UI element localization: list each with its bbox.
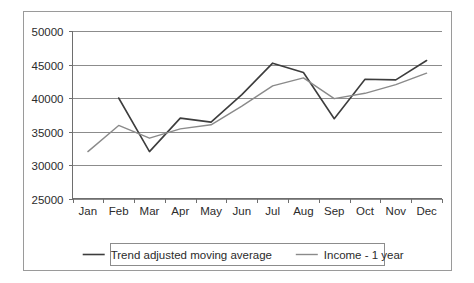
x-tick-label-may: May (200, 205, 222, 217)
y-tick-label: 50000 (32, 26, 64, 38)
chart-legend: Trend adjusted moving averageIncome - 1 … (83, 244, 404, 266)
y-tick-label: 25000 (32, 194, 64, 206)
x-tick-label-oct: Oct (356, 205, 375, 217)
x-tick-label-nov: Nov (386, 205, 407, 217)
x-tick-label-apr: Apr (171, 205, 189, 217)
x-tick-label-mar: Mar (140, 205, 160, 217)
y-tick-label: 35000 (32, 127, 64, 139)
y-tick-label: 45000 (32, 60, 64, 72)
x-tick-label-jan: Jan (79, 205, 98, 217)
x-tick-label-sep: Sep (324, 205, 344, 217)
x-tick-label-dec: Dec (416, 205, 437, 217)
chart-outer-frame (24, 12, 452, 271)
y-tick-label: 40000 (32, 93, 64, 105)
x-tick-label-feb: Feb (109, 205, 129, 217)
legend-items: Trend adjusted moving averageIncome - 1 … (83, 249, 404, 261)
legend-label-1: Trend adjusted moving average (111, 249, 272, 261)
x-tick-label-aug: Aug (293, 205, 313, 217)
line-chart-figure: 500004500040000350003000025000 JanFebMar… (0, 0, 474, 283)
y-tick-label: 30000 (32, 160, 64, 172)
legend-label-2: Income - 1 year (324, 249, 404, 261)
x-tick-label-jul: Jul (265, 205, 280, 217)
x-tick-label-jun: Jun (233, 205, 252, 217)
